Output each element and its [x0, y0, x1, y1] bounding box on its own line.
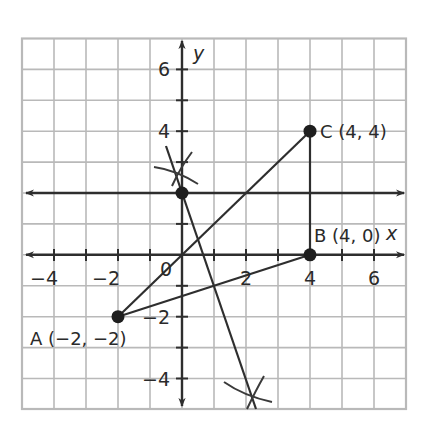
coordinate-plane-svg: −4 −2 2 4 6 6 4 −2 −4 0 y x C (4, 4) B (… [0, 0, 427, 431]
x-axis-label: x [385, 222, 398, 244]
y-tick-label: −2 [142, 306, 170, 328]
x-tick-label: −2 [92, 267, 120, 289]
point-a-label: A (−2, −2) [30, 328, 127, 349]
origin-label: 0 [160, 258, 172, 280]
x-tick-label: 4 [304, 267, 316, 289]
x-tick-label: −4 [30, 267, 58, 289]
coordinate-plane-figure: −4 −2 2 4 6 6 4 −2 −4 0 y x C (4, 4) B (… [0, 0, 427, 431]
y-axis-label: y [192, 42, 205, 64]
y-tick-label: 6 [158, 58, 170, 80]
point-b [304, 248, 317, 261]
x-tick-label: 6 [368, 267, 380, 289]
point-c [304, 125, 317, 138]
point-intersection-0-2 [176, 187, 189, 200]
y-tick-label: −4 [142, 368, 170, 390]
x-tick-label: 2 [240, 267, 252, 289]
y-tick-label: 4 [158, 120, 170, 142]
point-b-label: B (4, 0) [314, 225, 380, 246]
point-c-label: C (4, 4) [320, 121, 387, 142]
point-a [112, 310, 125, 323]
